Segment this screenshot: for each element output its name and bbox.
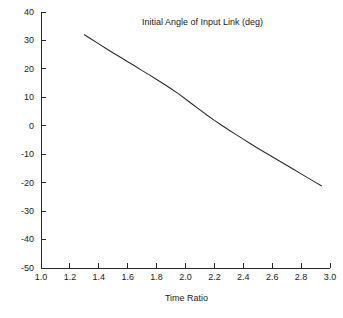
x-axis-title: Time Ratio — [165, 293, 208, 303]
x-tick-label: 1.0 — [35, 272, 48, 282]
data-series-line — [84, 35, 321, 186]
data-series-group — [84, 35, 321, 186]
x-tick-label: 2.8 — [295, 272, 308, 282]
chart-title: Initial Angle of Input Link (deg) — [142, 17, 263, 27]
y-tick-label: 40 — [24, 7, 34, 17]
x-tick-label: 1.2 — [64, 272, 77, 282]
chart-figure: 403020100-10-20-30-40-50 1.01.21.41.61.8… — [0, 0, 343, 318]
x-tick-label: 2.6 — [266, 272, 279, 282]
y-tick-label: -10 — [21, 149, 34, 159]
axis-spines — [41, 12, 330, 268]
x-tick-label: 2.4 — [237, 272, 250, 282]
axes — [41, 12, 330, 268]
x-tick-label: 3.0 — [324, 272, 337, 282]
x-tick-label: 1.8 — [150, 272, 163, 282]
chart-canvas: 403020100-10-20-30-40-50 1.01.21.41.61.8… — [0, 0, 343, 318]
x-tick-label: 2.2 — [208, 272, 221, 282]
y-axis-tick-labels: 403020100-10-20-30-40-50 — [21, 7, 34, 273]
y-tick-label: 10 — [24, 92, 34, 102]
y-tick-label: 0 — [29, 121, 34, 131]
y-tick-label: -20 — [21, 178, 34, 188]
y-axis-ticks — [41, 12, 46, 268]
y-tick-label: -30 — [21, 206, 34, 216]
x-tick-label: 1.4 — [93, 272, 106, 282]
x-axis-tick-labels: 1.01.21.41.61.82.02.22.42.62.83.0 — [35, 272, 337, 282]
x-tick-label: 1.6 — [121, 272, 134, 282]
y-tick-label: 20 — [24, 64, 34, 74]
y-tick-label: -50 — [21, 263, 34, 273]
y-tick-label: -40 — [21, 234, 34, 244]
x-axis-ticks — [41, 263, 330, 268]
x-tick-label: 2.0 — [179, 272, 192, 282]
y-tick-label: 30 — [24, 35, 34, 45]
